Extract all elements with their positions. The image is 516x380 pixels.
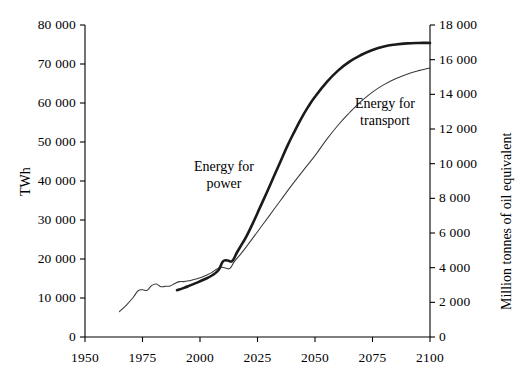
y-axis-right-ticks	[430, 25, 435, 337]
y-axis-right-tick-label: 2 000	[439, 296, 470, 310]
y-axis-right-tick-label: 16 000	[439, 53, 477, 67]
series-label-transport-line2: transport	[355, 113, 415, 130]
y-axis-left-tick-label: 80 000	[38, 18, 76, 32]
y-axis-left-title: TWh	[18, 167, 34, 196]
y-axis-left-tick-label: 50 000	[38, 135, 76, 149]
y-axis-right-tick-label: 10 000	[439, 157, 477, 171]
y-axis-right-tick-label: 0	[439, 330, 446, 344]
y-axis-right-tick-label: 12 000	[439, 122, 477, 136]
series-label-energy-for-power: Energy for power	[194, 159, 254, 192]
y-axis-right-title: Million tonnes of oil equivalent	[499, 133, 515, 310]
x-axis-tick-label: 2025	[244, 351, 272, 365]
series-label-transport-line1: Energy for	[355, 96, 415, 113]
x-axis-tick-label: 2050	[301, 351, 329, 365]
y-axis-left-tick-label: 10 000	[38, 291, 76, 305]
y-axis-right-tick-label: 14 000	[439, 88, 477, 102]
series-label-energy-for-transport: Energy for transport	[355, 96, 415, 129]
y-axis-left-tick-label: 30 000	[38, 213, 76, 227]
x-axis-tick-label: 2075	[359, 351, 387, 365]
y-axis-left-tick-label: 40 000	[38, 174, 76, 188]
y-axis-left-tick-label: 60 000	[38, 96, 76, 110]
y-axis-left-ticks	[80, 25, 85, 337]
y-axis-left-tick-label: 70 000	[38, 57, 76, 71]
x-axis-tick-label: 1950	[71, 351, 99, 365]
x-axis-ticks	[85, 337, 430, 342]
y-axis-right-tick-label: 4 000	[439, 261, 470, 275]
series-label-power-line2: power	[194, 176, 254, 193]
x-axis-tick-label: 2000	[186, 351, 214, 365]
series-label-power-line1: Energy for	[194, 159, 254, 176]
y-axis-right-tick-label: 6 000	[439, 226, 470, 240]
y-axis-left-tick-label: 0	[69, 330, 76, 344]
x-axis-tick-label: 1975	[129, 351, 157, 365]
y-axis-left-tick-label: 20 000	[38, 252, 76, 266]
chart-figure: 010 00020 00030 00040 00050 00060 00070 …	[0, 0, 516, 380]
axes-group	[85, 25, 430, 337]
y-axis-right-tick-label: 8 000	[439, 192, 470, 206]
y-axis-right-tick-label: 18 000	[439, 18, 477, 32]
x-axis-tick-label: 2100	[416, 351, 444, 365]
